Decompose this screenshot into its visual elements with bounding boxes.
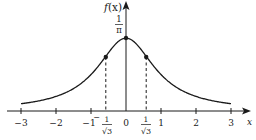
cauchy-density-plot: f(x) 1 π x −3 −2 −1 0 1 2 3 − 1 √3 1 √3 xyxy=(0,0,256,140)
x-tick-labels: −3 −2 −1 0 1 2 3 xyxy=(14,118,234,128)
svg-text:0: 0 xyxy=(123,118,129,128)
svg-text:1: 1 xyxy=(144,115,149,124)
svg-text:1: 1 xyxy=(116,14,121,24)
svg-text:−: − xyxy=(93,113,100,122)
svg-text:2: 2 xyxy=(193,118,199,128)
svg-text:1: 1 xyxy=(158,118,164,128)
svg-text:1: 1 xyxy=(105,115,110,124)
pos-inflection-label: 1 √3 xyxy=(141,115,151,136)
svg-text:−3: −3 xyxy=(14,118,28,128)
y-axis-label: f(x) xyxy=(103,1,122,13)
svg-text:√3: √3 xyxy=(141,127,151,136)
maximum-point xyxy=(124,36,128,40)
svg-text:3: 3 xyxy=(228,118,234,128)
svg-text:π: π xyxy=(116,25,122,35)
x-axis-label: x xyxy=(247,117,252,127)
svg-text:√3: √3 xyxy=(102,127,112,136)
neg-inflection-label: − 1 √3 xyxy=(93,113,112,136)
svg-text:−2: −2 xyxy=(49,118,62,128)
max-value-label: 1 π xyxy=(115,14,123,35)
inflection-point-right xyxy=(144,55,148,59)
inflection-point-left xyxy=(104,55,108,59)
